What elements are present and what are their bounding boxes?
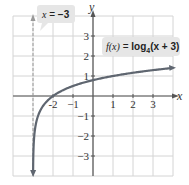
- asymptote-label: x = −3: [41, 9, 70, 20]
- x-tick-label: 3: [150, 98, 156, 110]
- y-tick-label: −3: [77, 150, 89, 162]
- x-tick-label: 1: [110, 98, 116, 110]
- asymptote-arrow-icon: [31, 14, 36, 21]
- y-tick-label: −1: [77, 110, 89, 122]
- y-tick-label: −2: [77, 130, 89, 142]
- y-tick-label: 3: [84, 30, 90, 42]
- function-callout: f(x) = log4(x + 3): [102, 37, 180, 56]
- axes: [13, 10, 179, 176]
- y-tick-label: 2: [84, 50, 90, 62]
- y-tick-label: 1: [84, 70, 90, 82]
- log-function-graph: -2−1123321−1−2−3 x = −3 f(x) = log4(x + …: [0, 0, 189, 185]
- x-tick-label: −1: [67, 98, 79, 110]
- y-axis-label: y: [88, 0, 95, 14]
- asymptote-callout: x = −3: [37, 5, 75, 31]
- x-axis-label: x: [176, 89, 183, 103]
- x-tick-label: 2: [130, 98, 136, 110]
